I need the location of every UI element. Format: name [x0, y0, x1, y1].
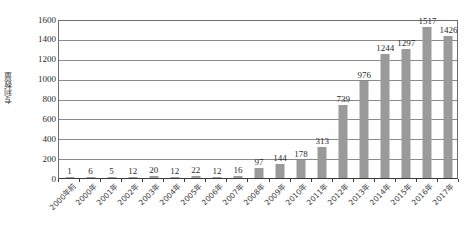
bar-value-label: 313: [315, 136, 329, 146]
bar-slot: 1426: [438, 21, 459, 178]
plot-area: 1651220122212169714417831373997612441297…: [58, 20, 458, 179]
bar-slot: 6: [80, 21, 101, 178]
bar-slot: 16: [227, 21, 248, 178]
bar-slot: 739: [333, 21, 354, 178]
bar-value-label: 178: [294, 149, 308, 159]
bar[interactable]: [360, 81, 369, 178]
bar-slot: 144: [270, 21, 291, 178]
x-axis-tick-labels: 2000年前2000年2001年2002年2003年2004年2005年2006…: [58, 183, 458, 234]
bar-value-label: 1244: [376, 43, 394, 53]
bar-value-label: 1426: [439, 25, 457, 35]
bar-slot: 12: [164, 21, 185, 178]
bar-value-label: 1297: [397, 38, 415, 48]
y-axis-tick-label: 800: [20, 95, 56, 104]
bar[interactable]: [423, 27, 432, 178]
bar-slot: 313: [312, 21, 333, 178]
bar-value-label: 739: [336, 94, 350, 104]
bar-slot: 5: [101, 21, 122, 178]
bar-slot: 12: [122, 21, 143, 178]
bar[interactable]: [444, 36, 453, 178]
y-axis-tick-labels: 02004006008001000120014001600: [18, 0, 56, 234]
bar[interactable]: [402, 49, 411, 178]
bar-slot: 22: [185, 21, 206, 178]
x-axis-tick: [58, 179, 59, 182]
y-axis-tick-label: 600: [20, 115, 56, 124]
bar[interactable]: [65, 177, 74, 178]
y-axis-tick-label: 1200: [20, 55, 56, 64]
y-axis-title: 专利数量: [4, 72, 18, 104]
y-axis-tick-label: 1600: [20, 16, 56, 25]
bar-slot: 1244: [375, 21, 396, 178]
bar-value-label: 1517: [418, 16, 436, 26]
bar-value-label: 1: [67, 166, 72, 176]
y-axis-tick-label: 0: [20, 175, 56, 184]
bar-value-label: 976: [358, 70, 372, 80]
bar-slot: 97: [248, 21, 269, 178]
y-axis-tick-label: 400: [20, 135, 56, 144]
bar-slot: 1517: [417, 21, 438, 178]
patent-count-bar-chart: 专利数量 02004006008001000120014001600 16512…: [0, 0, 471, 234]
bar-slot: 1: [59, 21, 80, 178]
y-axis-tick-label: 200: [20, 155, 56, 164]
y-axis-tick-label: 1000: [20, 75, 56, 84]
y-axis-tick-label: 1400: [20, 35, 56, 44]
bar-slot: 12: [206, 21, 227, 178]
bar-slot: 178: [291, 21, 312, 178]
bar-value-label: 144: [273, 153, 287, 163]
bar-slot: 1297: [396, 21, 417, 178]
bar-slot: 976: [354, 21, 375, 178]
bar-slot: 20: [143, 21, 164, 178]
bars-layer: 1651220122212169714417831373997612441297…: [59, 21, 457, 178]
bar[interactable]: [381, 54, 390, 178]
